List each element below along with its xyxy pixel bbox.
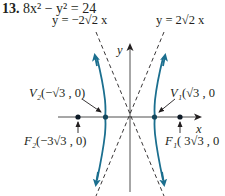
hyperbola-graph: y = −2√2 x y = 2√2 x y x V₂(−√3 , 0) V₁(…: [0, 0, 225, 196]
focus-f2-label: F₂(−3√3 , 0): [23, 134, 86, 148]
vertex-v2-point: [103, 114, 108, 119]
right-branch-bottom-arrow-icon: [162, 172, 164, 184]
focus-f1-point: [177, 114, 182, 119]
vertex-v1-point: [152, 114, 157, 119]
asymptote-label-right: y = 2√2 x: [156, 13, 205, 27]
asymptote-label-left: y = −2√2 x: [52, 13, 108, 27]
right-branch-top-arrow-icon: [163, 56, 165, 66]
left-branch-bottom-arrow-icon: [96, 172, 98, 184]
v1-pointer-arrow-icon: [159, 99, 175, 112]
vertex-v1-label: V₁(√3 , 0: [170, 86, 215, 100]
left-branch-top-arrow-icon: [95, 56, 97, 66]
v2-pointer-arrow-icon: [82, 99, 101, 112]
focus-f2-point: [75, 114, 80, 119]
y-axis-label: y: [115, 43, 123, 57]
vertex-v2-label: V₂(−√3 , 0): [29, 86, 85, 100]
focus-f1-label: F₁( 3√3 , 0: [164, 134, 219, 148]
